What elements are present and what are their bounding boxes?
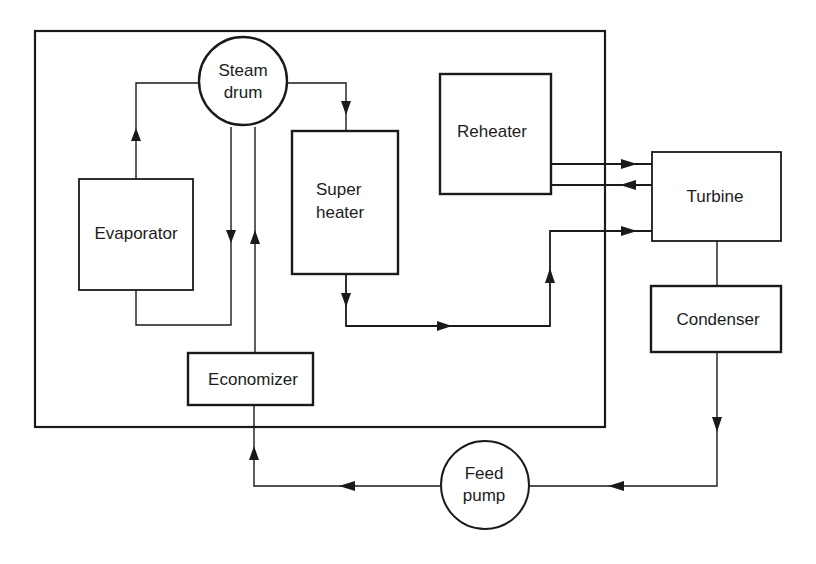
arrow-up-icon <box>250 230 260 244</box>
arrow-up-icon <box>131 128 141 141</box>
arrow-left-icon <box>620 180 636 190</box>
plant-diagram: Steam drum Evaporator Super heater Rehea… <box>0 0 816 564</box>
arrow-down-icon <box>341 293 351 307</box>
economizer: Economizer <box>188 353 313 405</box>
flow-pump-to-economizer <box>254 405 441 486</box>
superheater-label-1: Super <box>316 180 362 199</box>
arrow-down-icon <box>341 101 351 115</box>
arrow-up-icon <box>249 446 259 460</box>
feed-pump-label-1: Feed <box>465 464 504 483</box>
arrow-right-icon <box>621 159 637 169</box>
steam-drum-label-1: Steam <box>218 61 267 80</box>
superheater-label-2: heater <box>316 203 365 222</box>
arrow-down-icon <box>226 230 236 243</box>
evaporator-label: Evaporator <box>94 224 177 243</box>
economizer-label: Economizer <box>208 370 298 389</box>
reheater-label: Reheater <box>457 122 527 141</box>
turbine-label: Turbine <box>686 187 743 206</box>
flow-evaporator-to-drum <box>136 83 199 179</box>
condenser-label: Condenser <box>676 310 760 329</box>
reheater: Reheater <box>440 74 551 194</box>
feed-pump: Feed pump <box>441 441 529 529</box>
steam-drum: Steam drum <box>199 37 287 125</box>
superheater: Super heater <box>292 131 398 274</box>
feed-pump-label-2: pump <box>463 486 506 505</box>
flow-condenser-to-pump <box>529 352 717 486</box>
arrow-up-icon <box>545 268 555 283</box>
arrow-right-icon <box>621 226 637 236</box>
evaporator: Evaporator <box>79 179 193 290</box>
flow-drum-to-superheater <box>288 83 346 131</box>
arrow-right-icon <box>437 321 452 331</box>
arrow-left-icon <box>339 481 355 491</box>
condenser: Condenser <box>651 286 781 352</box>
turbine: Turbine <box>652 152 781 241</box>
arrow-down-icon <box>712 417 722 432</box>
arrow-left-icon <box>608 481 624 491</box>
steam-drum-label-2: drum <box>224 83 263 102</box>
